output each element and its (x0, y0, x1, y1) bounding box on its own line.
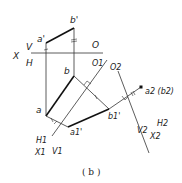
label-b-prime: b' (70, 15, 78, 25)
label-o: O (92, 40, 99, 50)
line-ab (46, 76, 74, 116)
label-x: X (12, 51, 20, 61)
right-angle-mark (54, 121, 57, 124)
x1-axis (52, 60, 107, 136)
label-v: V (26, 42, 33, 52)
label-x2: X2 (149, 132, 161, 141)
projector-a-a1 (46, 116, 68, 127)
right-angle-mark (84, 81, 91, 85)
point-a2-b2 (140, 86, 143, 89)
line-a-prime-b-prime (46, 28, 74, 43)
label-b: b (64, 66, 70, 76)
label-h1: H1 (36, 136, 47, 145)
label-h: H (26, 58, 33, 68)
label-o2: O2 (110, 63, 121, 72)
projection-diagram: a' b' X V H O b a O1 O2 a1' b1' H1 X1 V1… (0, 0, 182, 183)
label-h2: H2 (157, 119, 168, 128)
line-a1-b1-prime (68, 109, 109, 127)
figure-caption: ( b ) (82, 167, 101, 177)
label-x1: X1 (34, 148, 46, 157)
label-a-prime: a' (37, 34, 45, 44)
label-v1: V1 (52, 147, 63, 156)
x2-axis (118, 71, 149, 153)
label-a2-b2: a2 (b2) (145, 87, 174, 96)
label-v2: V2 (137, 126, 148, 135)
label-b1-prime: b1' (108, 112, 120, 121)
label-a: a (36, 105, 42, 115)
label-a1-prime: a1' (70, 128, 82, 137)
label-o1: O1 (92, 59, 103, 68)
